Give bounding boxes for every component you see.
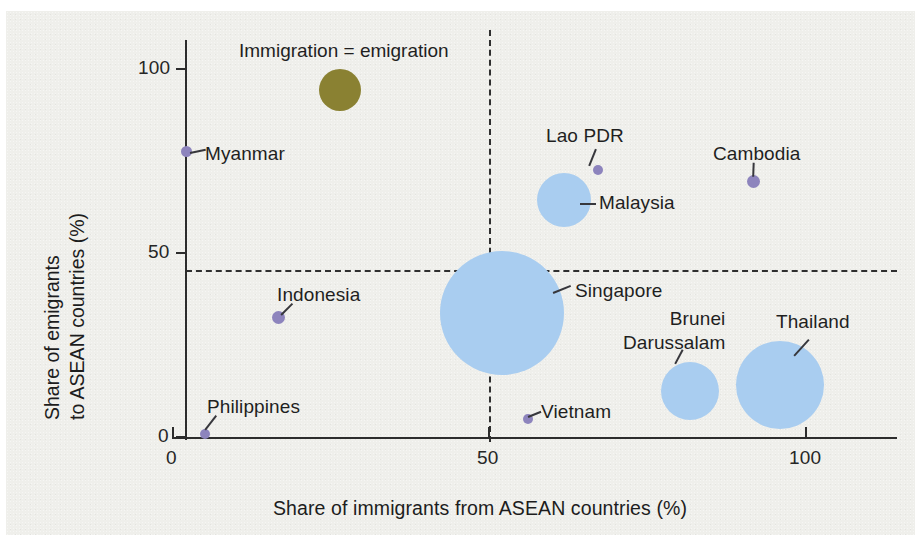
label-indonesia: Indonesia (277, 283, 360, 306)
leader-vietnam (528, 411, 542, 418)
label-vietnam: Vietnam (541, 400, 611, 423)
label-brunei-darussalam: Brunei Darussalam (623, 307, 725, 355)
legend-bubble-olive (319, 69, 361, 111)
point-singapore[interactable] (440, 251, 564, 375)
label-myanmar: Myanmar (205, 142, 285, 165)
plot-area: 100 50 0 0 50 100 Share of emigrants to … (0, 0, 921, 544)
point-cambodia[interactable] (747, 175, 760, 188)
y-tick-0 (176, 436, 187, 438)
x-ticklabel-0: 0 (166, 447, 177, 469)
x-axis-line (172, 437, 897, 439)
y-ticklabel-50: 50 (148, 241, 170, 263)
label-brunei-line1: Brunei (670, 308, 726, 329)
reference-line-vertical-50 (489, 30, 491, 442)
point-brunei-darussalam[interactable] (661, 362, 719, 420)
leader-lao-pdr (588, 149, 596, 166)
point-malaysia[interactable] (537, 173, 591, 227)
leader-myanmar (190, 149, 206, 154)
x-ticklabel-50: 50 (477, 447, 499, 469)
y-ticklabel-100: 100 (138, 57, 170, 79)
y-axis-line (185, 40, 187, 440)
point-lao-pdr[interactable] (593, 165, 603, 175)
label-thailand: Thailand (776, 310, 850, 333)
legend-label-immigration-equals-emigration: Immigration = emigration (239, 40, 449, 62)
y-tick-50 (176, 252, 187, 254)
x-tick-0 (172, 427, 174, 438)
label-philippines: Philippines (207, 395, 300, 418)
figure-scatter-asean-migration: 100 50 0 0 50 100 Share of emigrants to … (0, 0, 921, 544)
y-axis-title-line1: Share of emigrants (41, 255, 64, 420)
label-brunei-line2: Darussalam (623, 332, 725, 353)
x-ticklabel-100: 100 (789, 447, 821, 469)
label-singapore: Singapore (575, 279, 663, 302)
x-tick-50 (488, 427, 490, 438)
leader-malaysia (580, 203, 596, 205)
label-lao-pdr: Lao PDR (546, 124, 624, 147)
y-axis-title: Share of emigrants to ASEAN countries (%… (63, 120, 123, 420)
y-tick-100 (176, 68, 187, 70)
label-cambodia: Cambodia (713, 142, 800, 165)
y-ticklabel-0: 0 (158, 425, 169, 447)
x-axis-title: Share of immigrants from ASEAN countries… (273, 497, 687, 520)
y-axis-title-line2: to ASEAN countries (%) (66, 213, 89, 420)
point-thailand[interactable] (736, 341, 824, 429)
x-tick-100 (805, 427, 807, 438)
label-malaysia: Malaysia (599, 191, 675, 214)
